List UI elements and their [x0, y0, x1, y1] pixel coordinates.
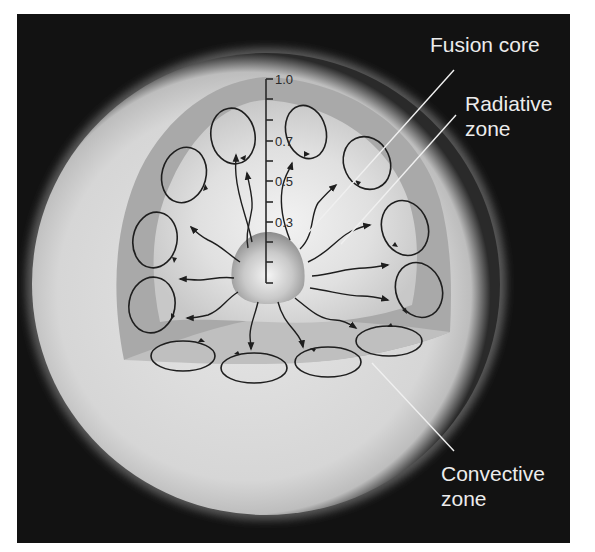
scale-label-1-0: 1.0	[275, 72, 293, 87]
label-fusion-core: Fusion core	[430, 32, 540, 57]
label-convective-zone-line1: Convective	[441, 461, 545, 486]
scale-label-0-3: 0.3	[275, 215, 293, 230]
scale-label-0-5: 0.5	[275, 174, 293, 189]
label-convective-zone-line2: zone	[441, 486, 545, 511]
label-radiative-zone-line2: zone	[465, 116, 553, 141]
label-radiative-zone-line1: Radiative	[465, 91, 553, 116]
scale-label-0-7: 0.7	[275, 134, 293, 149]
label-radiative-zone: Radiative zone	[465, 91, 553, 141]
label-convective-zone: Convective zone	[441, 461, 545, 511]
star-structure-diagram: 1.0 0.7 0.5 0.3 Fusion core Radiative zo…	[0, 0, 595, 552]
label-fusion-core-text: Fusion core	[430, 33, 540, 56]
